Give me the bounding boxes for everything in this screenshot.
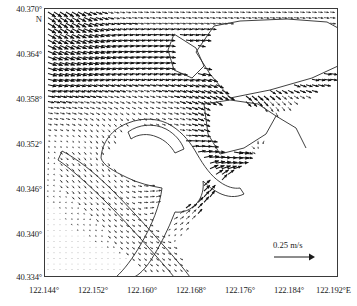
- velocity-vector: [48, 213, 49, 214]
- velocity-vector: [48, 208, 49, 209]
- velocity-vector: [126, 258, 127, 259]
- velocity-vector: [102, 252, 103, 253]
- velocity-vector-head: [190, 140, 193, 142]
- velocity-vector-head: [189, 102, 192, 104]
- velocity-vector: [78, 252, 79, 253]
- velocity-vector-head: [74, 113, 76, 115]
- velocity-vector-head: [189, 22, 192, 24]
- scale-bar-arrow-icon: [273, 252, 317, 262]
- velocity-vector: [114, 252, 115, 253]
- velocity-vector-head: [171, 107, 173, 109]
- velocity-vector-head: [95, 229, 97, 231]
- velocity-vector: [48, 247, 49, 248]
- velocity-vector: [114, 258, 115, 259]
- velocity-vector: [60, 252, 61, 253]
- velocity-vector-head: [158, 107, 160, 109]
- velocity-vector: [48, 219, 49, 220]
- velocity-vector-head: [80, 113, 82, 115]
- velocity-vector: [102, 258, 103, 259]
- velocity-vector: [78, 236, 79, 237]
- y-tick-label-0: 40.370°: [0, 4, 42, 14]
- velocity-vector: [90, 269, 91, 270]
- velocity-vector-head: [315, 90, 318, 92]
- velocity-vector: [108, 258, 109, 259]
- velocity-vector-head: [170, 113, 172, 115]
- scale-bar-label: 0.25 m/s: [273, 240, 303, 250]
- velocity-vector: [54, 258, 55, 259]
- velocity-vector-head: [101, 229, 103, 231]
- velocity-vector-head: [47, 196, 49, 198]
- x-tick-label-0: 122.144°: [19, 285, 69, 295]
- velocity-vector-head: [87, 107, 89, 109]
- velocity-vector: [108, 264, 109, 265]
- velocity-vector: [102, 264, 103, 265]
- plot-area: [44, 8, 338, 277]
- velocity-vector: [54, 252, 55, 253]
- velocity-vector: [60, 269, 61, 270]
- velocity-vector: [84, 269, 85, 270]
- velocity-vector: [48, 258, 49, 259]
- velocity-vector: [60, 230, 61, 231]
- inner-lagoon-outline: [128, 125, 184, 153]
- velocity-vector-head: [159, 102, 161, 104]
- velocity-vector-head: [95, 235, 97, 237]
- velocity-vector: [54, 247, 55, 248]
- velocity-vector: [54, 230, 55, 231]
- velocity-vector: [66, 241, 67, 242]
- velocity-vector: [84, 241, 85, 242]
- velocity-vector: [60, 219, 61, 220]
- velocity-vector: [54, 219, 55, 220]
- velocity-vector: [78, 258, 79, 259]
- vector-field-canvas: [44, 8, 338, 277]
- velocity-vector: [60, 258, 61, 259]
- velocity-vector-head: [53, 174, 55, 176]
- x-tick-label-1: 122.152°: [68, 285, 118, 295]
- velocity-vector-head: [47, 184, 49, 186]
- velocity-vector: [48, 224, 49, 225]
- velocity-vector-head: [95, 240, 97, 242]
- velocity-vector-head: [153, 190, 155, 192]
- velocity-vector: [96, 269, 97, 270]
- y-tick-label-5: 40.340°: [0, 229, 42, 239]
- velocity-vector: [48, 236, 49, 237]
- velocity-vector-head: [59, 196, 61, 198]
- velocity-vector-head: [71, 207, 73, 209]
- velocity-vector-head: [54, 157, 56, 159]
- velocity-vector-head: [77, 207, 79, 209]
- velocity-vector: [84, 258, 85, 259]
- velocity-vector-head: [135, 96, 138, 98]
- velocity-vector-head: [117, 17, 120, 19]
- velocity-vector-head: [53, 179, 55, 181]
- velocity-vector: [114, 264, 115, 265]
- velocity-vector-head: [107, 241, 109, 243]
- plot-frame: [45, 9, 338, 277]
- velocity-vector-head: [47, 179, 49, 181]
- land-polygon-east: [204, 100, 276, 154]
- x-tick-label-5: 122.184°: [264, 285, 314, 295]
- velocity-vector: [84, 264, 85, 265]
- velocity-vector: [72, 264, 73, 265]
- x-tick-label-2: 122.160°: [117, 285, 167, 295]
- velocity-vector-head: [183, 113, 186, 115]
- velocity-vector-head: [183, 102, 186, 104]
- x-tick-label-4: 122.176°: [215, 285, 265, 295]
- velocity-vector-head: [65, 201, 67, 203]
- velocity-vector-head: [153, 201, 155, 203]
- velocity-vector: [48, 252, 49, 253]
- velocity-vector: [108, 252, 109, 253]
- velocity-vector: [78, 241, 79, 242]
- velocity-vector-head: [117, 96, 120, 98]
- velocity-vector-head: [65, 207, 67, 209]
- x-tick-label-6: 122.192°E: [310, 285, 357, 295]
- velocity-vector-head: [47, 162, 49, 164]
- velocity-vector-head: [65, 212, 67, 214]
- velocity-vector-head: [47, 190, 49, 192]
- velocity-vector-head: [105, 102, 107, 104]
- velocity-vector: [60, 247, 61, 248]
- velocity-vector: [48, 269, 49, 270]
- velocity-vector: [84, 252, 85, 253]
- velocity-vector-head: [59, 190, 61, 192]
- velocity-vector-head: [119, 252, 121, 254]
- velocity-vector-head: [105, 12, 108, 14]
- velocity-vector-head: [77, 218, 79, 220]
